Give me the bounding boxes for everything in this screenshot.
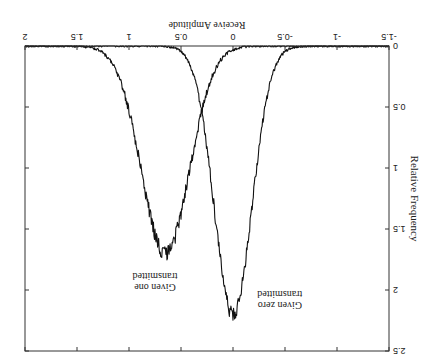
annotation-given-zero: Given zerotransmitted: [257, 289, 302, 311]
series-given-one: [25, 46, 389, 260]
annotation-given-zero-line1: Given zero: [258, 300, 302, 311]
y-tick-label: 0: [393, 41, 398, 51]
x-tick-label: 0: [230, 32, 235, 42]
gaussian-chart: -1.5-1-0.500.511.5200.511.522.5Receive A…: [0, 0, 434, 362]
chart-figure: -1.5-1-0.500.511.5200.511.522.5Receive A…: [0, 0, 434, 362]
x-tick-label: -1.5: [381, 32, 397, 42]
annotation-given-zero-line2: transmitted: [257, 289, 302, 300]
plot-area: [25, 46, 389, 320]
annotations: Given zerotransmittedGiven onetransmitte…: [133, 271, 303, 311]
y-tick-label: 1: [393, 163, 398, 173]
y-tick-label: 2: [393, 285, 398, 295]
x-tick-label: 1.5: [71, 32, 84, 42]
annotation-given-one: Given onetransmitted: [133, 271, 178, 293]
series-given-zero: [25, 46, 389, 320]
annotation-given-one-line2: transmitted: [133, 271, 178, 282]
x-tick-label: 1: [126, 32, 131, 42]
annotation-given-one-line1: Given one: [134, 282, 176, 293]
y-tick-label: 2.5: [393, 346, 406, 356]
x-tick-label: -1: [333, 32, 341, 42]
x-tick-label: 2: [22, 32, 27, 42]
y-tick-label: 1.5: [393, 224, 406, 234]
x-tick-label: 0.5: [175, 32, 188, 42]
y-tick-label: 0.5: [393, 102, 406, 112]
x-tick-label: -0.5: [277, 32, 293, 42]
x-axis-label: Receive Amplitude: [168, 20, 245, 31]
axes: -1.5-1-0.500.511.5200.511.522.5Receive A…: [22, 20, 421, 356]
y-axis-label: Relative Frequency: [409, 156, 421, 242]
